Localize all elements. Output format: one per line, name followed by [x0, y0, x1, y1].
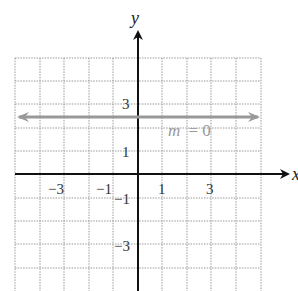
y-tick-label: −1 [114, 191, 130, 207]
x-tick-label: 3 [206, 181, 214, 197]
coordinate-plane: y x −3 −1 1 3 3 1 −1 −3 m = 0 [0, 0, 298, 291]
x-tick-label: −1 [96, 181, 112, 197]
x-axis-label: x [291, 164, 298, 184]
y-axis-label: y [129, 8, 139, 28]
x-tick-label: 1 [158, 181, 166, 197]
x-tick-label: −3 [48, 181, 64, 197]
y-tick-label: 1 [122, 144, 130, 160]
y-tick-label: −3 [114, 238, 130, 254]
slope-label: m = 0 [168, 121, 211, 140]
y-tick-label: 3 [122, 96, 130, 112]
